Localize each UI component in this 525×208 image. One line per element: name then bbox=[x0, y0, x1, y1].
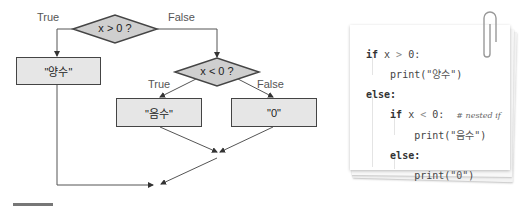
code-line: if x > 0: bbox=[366, 49, 420, 60]
code-line: print("0") bbox=[366, 170, 474, 181]
code-comment: # nested if bbox=[456, 111, 500, 120]
code-line: print("양수") bbox=[366, 69, 462, 80]
code-line: else: bbox=[366, 89, 396, 100]
decision-inner-label: x < 0 ? bbox=[187, 65, 247, 77]
box-zero: "0" bbox=[231, 98, 317, 127]
paperclip-icon bbox=[478, 8, 498, 58]
inner-true-label: True bbox=[148, 78, 170, 90]
code-line: if x < 0: # nested if bbox=[366, 109, 501, 120]
flowchart: x > 0 ? True False "양수" x < 0 ? True Fal… bbox=[0, 0, 330, 208]
code-line: print("음수") bbox=[366, 130, 486, 141]
outer-false-label: False bbox=[168, 11, 195, 23]
box-positive: "양수" bbox=[16, 57, 101, 85]
box-negative: "음수" bbox=[116, 98, 202, 127]
inner-false-label: False bbox=[257, 78, 284, 90]
code-block: if x > 0: print("양수") else: if x < 0: # … bbox=[366, 45, 501, 186]
code-line: else: bbox=[366, 150, 420, 161]
decorative-rule bbox=[13, 203, 53, 206]
outer-true-label: True bbox=[37, 11, 59, 23]
decision-outer-label: x > 0 ? bbox=[85, 22, 145, 34]
